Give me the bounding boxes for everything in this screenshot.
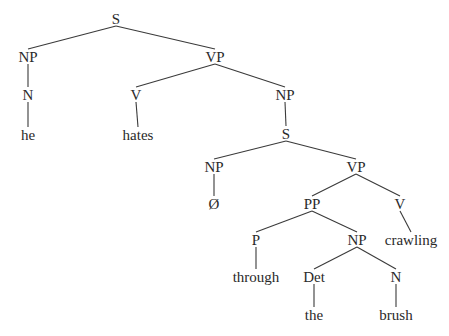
tree-edge — [357, 247, 396, 269]
tree-node-v2: V — [395, 196, 406, 212]
tree-edge — [214, 141, 286, 159]
tree-node-the: the — [305, 307, 324, 323]
tree-node-crawling: crawling — [385, 232, 438, 248]
tree-edge — [286, 141, 356, 159]
tree-edge — [116, 26, 215, 49]
tree-node-np2: NP — [275, 87, 294, 103]
tree-node-brush: brush — [379, 307, 413, 323]
tree-edge — [285, 102, 286, 126]
tree-node-through: through — [233, 269, 280, 285]
tree-node-s1: S — [112, 11, 120, 27]
tree-labels: SNPNheVPVhatesNPSNPØVPPPVcrawlingPNPthro… — [18, 11, 437, 323]
tree-node-vp2: VP — [346, 159, 365, 175]
tree-node-he: he — [21, 127, 36, 143]
tree-node-v1: V — [131, 87, 142, 103]
tree-node-n2: N — [391, 269, 402, 285]
tree-edge — [312, 174, 356, 196]
tree-node-s2: S — [282, 126, 290, 142]
tree-edge — [215, 64, 285, 87]
tree-node-np1: NP — [18, 49, 37, 65]
tree-node-vp1: VP — [205, 49, 224, 65]
tree-node-pp: PP — [304, 196, 321, 212]
tree-node-n1: N — [23, 87, 34, 103]
tree-edge — [312, 211, 357, 232]
tree-edge — [400, 211, 411, 232]
tree-edge — [28, 26, 116, 49]
tree-edge — [314, 247, 357, 269]
tree-node-null: Ø — [209, 196, 220, 212]
tree-edge — [356, 174, 400, 196]
tree-node-hates: hates — [123, 127, 154, 143]
tree-node-p: P — [252, 232, 260, 248]
tree-node-np3: NP — [204, 159, 223, 175]
tree-edge — [136, 64, 215, 87]
syntax-tree-diagram: SNPNheVPVhatesNPSNPØVPPPVcrawlingPNPthro… — [0, 0, 449, 336]
tree-edge — [256, 211, 312, 232]
tree-node-det: Det — [303, 269, 325, 285]
tree-node-np4: NP — [347, 232, 366, 248]
tree-edge — [136, 102, 138, 127]
